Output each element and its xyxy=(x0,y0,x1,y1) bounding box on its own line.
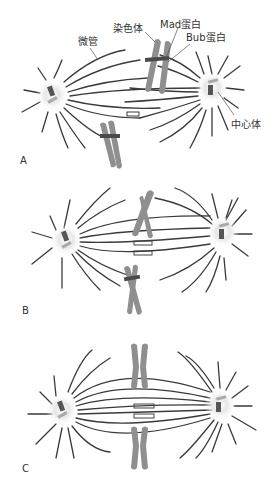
centrosome-left-a xyxy=(36,79,68,111)
centrosome-right-c xyxy=(204,389,236,421)
label-centrosome: 中心体 xyxy=(231,118,261,130)
panel-label-b: B xyxy=(22,305,29,316)
label-bub-protein: Bub蛋白 xyxy=(186,31,226,43)
centrosome-left-b xyxy=(50,224,82,256)
centrosome-left-c xyxy=(46,394,78,426)
chromosome-a-bottom xyxy=(100,121,122,169)
centrosome-right-b xyxy=(207,216,239,248)
kinetochore-protein xyxy=(100,134,120,138)
panel-c: C xyxy=(22,344,256,475)
label-chromosome: 染色体 xyxy=(113,22,143,34)
kinetochore-fragment xyxy=(127,112,139,116)
panel-label-c: C xyxy=(22,463,29,474)
chromosome-b-bottom xyxy=(124,265,142,315)
label-mad-protein: Mad蛋白 xyxy=(160,18,201,30)
panel-b: B xyxy=(22,188,252,316)
spindle-diagram: 微管 染色体 Mad蛋白 Bub蛋白 中心体 A xyxy=(0,0,279,482)
panel-label-a: A xyxy=(20,155,27,166)
kinetochore-fragments-b xyxy=(134,241,152,255)
chromosome-c-top xyxy=(131,344,148,389)
panel-a: 微管 染色体 Mad蛋白 Bub蛋白 中心体 A xyxy=(20,18,261,169)
label-microtubule: 微管 xyxy=(78,35,98,47)
